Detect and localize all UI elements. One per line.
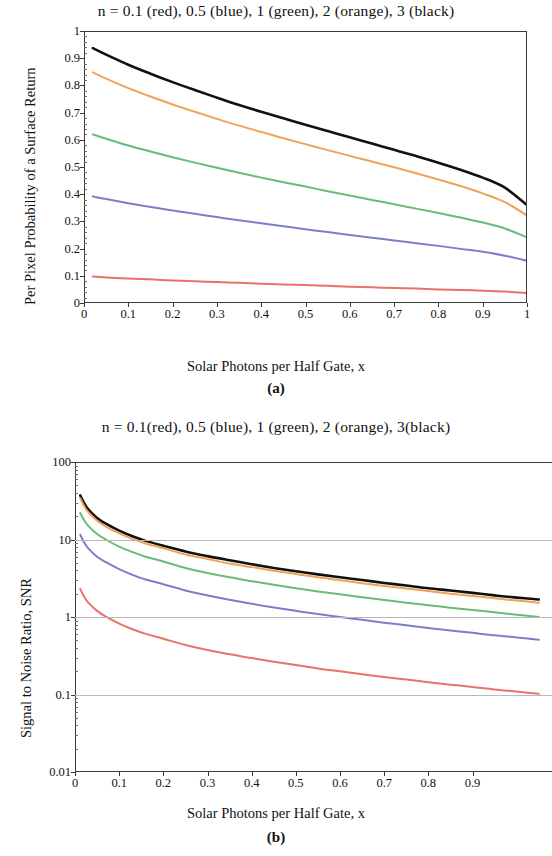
minor-tick <box>84 118 87 119</box>
y-tick-label: 0.3 <box>64 215 80 228</box>
gridline <box>75 540 552 541</box>
minor-tick <box>75 479 78 480</box>
series-line <box>80 513 538 617</box>
minor-tick <box>84 75 87 76</box>
x-tick-label: 0.3 <box>200 777 216 790</box>
x-tick-mark <box>350 303 351 307</box>
minor-tick <box>84 183 87 184</box>
minor-tick <box>84 47 87 48</box>
x-tick-label: 0.8 <box>431 308 447 321</box>
x-tick-label: 0.1 <box>120 308 136 321</box>
minor-tick <box>75 485 78 486</box>
minor-tick <box>75 557 78 558</box>
minor-tick <box>84 124 87 125</box>
x-tick-mark <box>84 303 85 307</box>
panel-b-ylabel: Signal to Noise Ratio, SNR <box>18 578 35 738</box>
x-tick-mark <box>296 772 297 776</box>
series-line <box>93 277 527 293</box>
minor-tick <box>75 543 78 544</box>
x-tick-label: 0.1 <box>111 777 127 790</box>
minor-tick <box>75 547 78 548</box>
minor-tick <box>75 648 78 649</box>
minor-tick <box>84 205 87 206</box>
x-tick-mark <box>119 772 120 776</box>
x-tick-mark <box>261 303 262 307</box>
x-tick-mark <box>252 772 253 776</box>
figure-container: n = 0.1 (red), 0.5 (blue), 1 (green), 2 … <box>0 0 552 856</box>
panel-a: n = 0.1 (red), 0.5 (blue), 1 (green), 2 … <box>0 0 552 410</box>
y-tick-mark <box>80 31 85 32</box>
x-tick-mark <box>428 772 429 776</box>
minor-tick <box>84 42 87 43</box>
y-tick-mark <box>80 167 85 168</box>
minor-tick <box>75 570 78 571</box>
x-tick-label: 0.9 <box>465 777 481 790</box>
minor-tick <box>84 200 87 201</box>
series-line <box>80 535 538 640</box>
y-tick-mark <box>80 249 85 250</box>
series-line <box>80 589 538 694</box>
minor-tick <box>84 64 87 65</box>
minor-tick <box>75 621 78 622</box>
panel-b-plot-area: 0.010.111010000.10.20.30.40.50.60.70.80.… <box>75 462 552 772</box>
minor-tick <box>84 232 87 233</box>
minor-tick <box>75 698 78 699</box>
y-tick-label: 100 <box>52 456 71 469</box>
minor-tick <box>75 563 78 564</box>
minor-tick <box>75 718 78 719</box>
minor-tick <box>75 712 78 713</box>
y-tick-mark <box>80 140 85 141</box>
minor-tick <box>84 260 87 261</box>
x-tick-mark <box>438 303 439 307</box>
panel-a-xlabel: Solar Photons per Half Gate, x <box>0 358 552 375</box>
y-tick-mark <box>71 695 76 696</box>
minor-tick <box>84 129 87 130</box>
series-line <box>80 495 538 599</box>
minor-tick <box>75 580 78 581</box>
minor-tick <box>84 287 87 288</box>
panel-b-xlabel: Solar Photons per Half Gate, x <box>0 805 552 822</box>
minor-tick <box>84 156 87 157</box>
y-tick-mark <box>80 194 85 195</box>
minor-tick <box>84 270 87 271</box>
y-tick-mark <box>71 540 76 541</box>
x-tick-label: 0.5 <box>298 308 314 321</box>
minor-tick <box>84 292 87 293</box>
minor-tick <box>84 102 87 103</box>
panel-a-ylabel: Per Pixel Probability of a Surface Retur… <box>22 67 39 305</box>
y-tick-mark <box>80 221 85 222</box>
gridline <box>75 617 552 618</box>
minor-tick <box>75 634 78 635</box>
minor-tick <box>75 493 78 494</box>
minor-tick <box>75 625 78 626</box>
x-tick-label: 0.9 <box>475 308 491 321</box>
panel-a-title: n = 0.1 (red), 0.5 (blue), 1 (green), 2 … <box>0 2 552 20</box>
x-tick-label: 0.7 <box>376 777 392 790</box>
x-tick-label: 0.3 <box>209 308 225 321</box>
x-tick-mark <box>340 772 341 776</box>
series-line <box>80 498 538 602</box>
minor-tick <box>84 53 87 54</box>
minor-tick <box>75 749 78 750</box>
minor-tick <box>75 552 78 553</box>
x-tick-label: 0.4 <box>244 777 260 790</box>
x-tick-label: 0.6 <box>332 777 348 790</box>
y-tick-mark <box>80 58 85 59</box>
minor-tick <box>84 178 87 179</box>
series-line <box>93 72 527 215</box>
x-tick-label: 0.2 <box>165 308 181 321</box>
minor-tick <box>84 227 87 228</box>
panel-b-caption: (b) <box>0 829 552 846</box>
series-line <box>93 196 527 260</box>
y-tick-label: 0.4 <box>64 188 80 201</box>
x-tick-label: 0.5 <box>288 777 304 790</box>
minor-tick <box>84 189 87 190</box>
y-tick-mark <box>80 85 85 86</box>
minor-tick <box>75 658 78 659</box>
minor-tick <box>75 470 78 471</box>
minor-tick <box>75 735 78 736</box>
minor-tick <box>84 91 87 92</box>
y-tick-label: 0.5 <box>64 161 80 174</box>
minor-tick <box>84 254 87 255</box>
minor-tick <box>84 134 87 135</box>
